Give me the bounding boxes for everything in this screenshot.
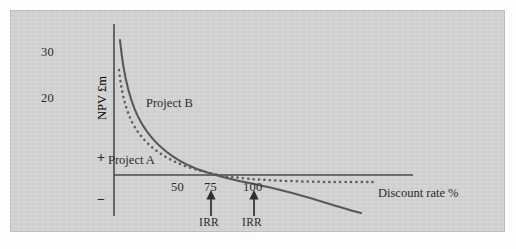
x-axis-title: Discount rate % (378, 187, 459, 200)
x-tick-label-75: 75 (204, 181, 217, 194)
y-axis-title-wrapper: NPV £m (95, 63, 113, 133)
negative-sign-marker: − (97, 193, 105, 207)
series-curve-project-b (120, 40, 361, 213)
y-tick-label-30: 30 (41, 46, 54, 59)
x-tick-label-50: 50 (171, 181, 184, 194)
figure-page: 30 20 + − NPV £m 50 75 100 Discount rate… (0, 0, 516, 249)
y-tick-label-20: 20 (41, 92, 54, 105)
y-axis-title: NPV £m (95, 63, 110, 133)
irr-label-project-b: IRR (242, 217, 262, 229)
series-curve-project-a (119, 70, 373, 182)
series-label-project-b: Project B (146, 97, 193, 110)
positive-sign-marker: + (97, 151, 105, 165)
irr-label-project-a: IRR (199, 217, 219, 229)
chart-figure-plate: 30 20 + − NPV £m 50 75 100 Discount rate… (10, 10, 505, 232)
series-label-project-a: Project A (108, 154, 155, 167)
x-tick-label-100: 100 (243, 181, 262, 194)
